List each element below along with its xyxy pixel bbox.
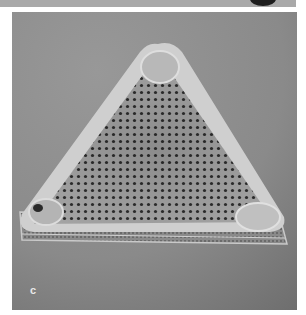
previous-panel-dark-object xyxy=(250,0,276,6)
diatom-illustration xyxy=(12,12,297,310)
panel-label: c xyxy=(30,284,36,296)
micrograph-panel: c xyxy=(12,12,297,310)
ocellus-left xyxy=(29,199,63,225)
previous-panel-strip xyxy=(0,0,296,7)
ocellus-right xyxy=(236,203,280,231)
ocellus-top xyxy=(141,51,179,83)
